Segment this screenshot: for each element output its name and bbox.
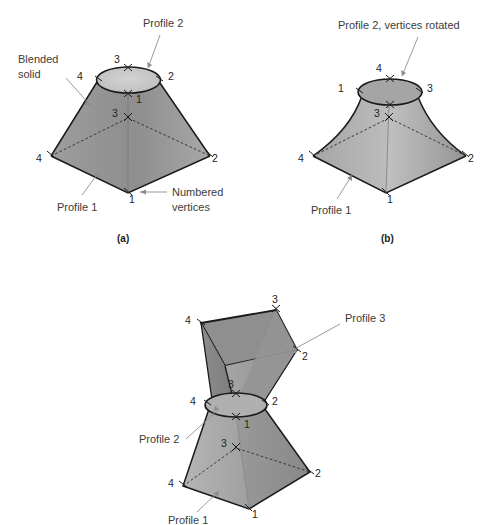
vertex-label-b-top-4: 4 — [376, 62, 382, 74]
vertex-label-c-base-3: 3 — [221, 437, 227, 449]
vertex-label-a-base-1: 1 — [129, 193, 135, 205]
caption-b: (b) — [381, 233, 394, 244]
vertex-label-a-base-3: 3 — [112, 107, 118, 119]
caption-a: (a) — [117, 233, 129, 244]
label-b-profile-2-rotated: Profile 2, vertices rotated — [338, 19, 460, 31]
vertex-label-c-mid-3: 3 — [228, 378, 234, 390]
vertex-label-a-base-2: 2 — [212, 152, 218, 164]
blended-solids-figure: 3 2 1 4 3 2 1 4 Profile 2 Blended solid … — [0, 0, 498, 525]
label-a-profile-1: Profile 1 — [57, 201, 97, 213]
vertex-label-b-top-3: 3 — [427, 82, 433, 94]
figure-root: 3 2 1 4 3 2 1 4 Profile 2 Blended solid … — [0, 0, 498, 525]
vertex-label-b-base-1: 1 — [387, 193, 393, 205]
label-a-numbered-vertices-line2: vertices — [172, 201, 210, 213]
vertex-label-c-mid-4: 4 — [190, 395, 196, 407]
label-a-blended-solid-line2: solid — [18, 68, 41, 80]
label-a-numbered-vertices-line1: Numbered — [172, 186, 223, 198]
label-c-profile-1: Profile 1 — [168, 514, 208, 525]
vertex-label-a-top-2: 2 — [168, 70, 174, 82]
panel-a-profile-2-ellipse — [97, 67, 161, 93]
vertex-label-b-base-3: 3 — [374, 107, 380, 119]
vertex-label-c-base-1: 1 — [252, 508, 258, 520]
label-c-profile-2: Profile 2 — [139, 433, 179, 445]
vertex-label-a-top-4: 4 — [77, 70, 83, 82]
vertex-label-b-base-2: 2 — [468, 152, 474, 164]
vertex-label-c-base-4: 4 — [168, 477, 174, 489]
vertex-label-b-top-1: 1 — [338, 82, 344, 94]
vertex-label-a-top-3: 3 — [114, 53, 120, 65]
panel-b-profile-2-ellipse — [358, 79, 422, 105]
vertex-label-c-mid-1: 1 — [244, 418, 250, 430]
label-a-profile-2: Profile 2 — [143, 17, 183, 29]
vertex-label-a-top-1: 1 — [136, 93, 142, 105]
label-a-blended-solid-line1: Blended — [18, 53, 58, 65]
vertex-label-c-base-2: 2 — [315, 467, 321, 479]
vertex-label-b-base-4: 4 — [298, 152, 304, 164]
vertex-label-c-mid-2: 2 — [272, 395, 278, 407]
vertex-label-c-top-2: 2 — [302, 350, 308, 362]
vertex-label-a-base-4: 4 — [36, 152, 42, 164]
vertex-label-c-top-4: 4 — [185, 314, 191, 326]
vertex-label-c-top-3: 3 — [272, 293, 278, 305]
label-b-profile-1: Profile 1 — [311, 204, 351, 216]
label-c-profile-3: Profile 3 — [345, 312, 385, 324]
